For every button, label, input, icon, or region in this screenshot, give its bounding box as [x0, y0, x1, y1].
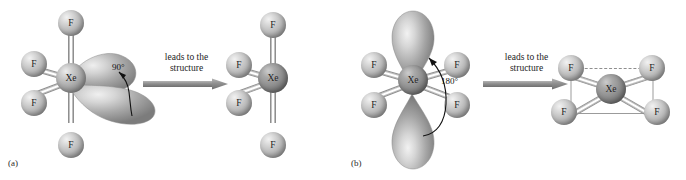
- angle-label-90: 90°: [112, 62, 125, 72]
- chemistry-figure: F F F F Xe 90° leads to the structure: [0, 0, 686, 180]
- angle-indicator-90: [95, 40, 165, 120]
- atom-xe-center: Xe: [56, 63, 86, 93]
- atom2-f-top: F: [260, 12, 286, 38]
- transition-text-line1-b: leads to the: [483, 52, 570, 64]
- atom-f-lower-left: F: [21, 90, 47, 116]
- atom3-f-upper-left: F: [361, 52, 387, 78]
- atom4-xe-center: Xe: [596, 74, 626, 104]
- panel-b: F F F F Xe 180° leads to the structure: [343, 0, 686, 180]
- angle-indicator-180: [403, 38, 473, 148]
- atom-f-top: F: [58, 10, 84, 36]
- atom4-f-front-left: F: [551, 99, 577, 125]
- atom3-f-lower-left: F: [361, 92, 387, 118]
- atom2-xe-center: Xe: [258, 63, 288, 93]
- atom2-f-lower-left: F: [226, 90, 252, 116]
- arrow-right-icon-b: [483, 78, 570, 92]
- atom4-f-front-right: F: [644, 99, 670, 125]
- atom-f-upper-left: F: [21, 51, 47, 77]
- transition-arrow-b: leads to the structure: [483, 52, 570, 92]
- panel-label-a: (a): [8, 158, 18, 168]
- atom4-f-back-right: F: [639, 55, 665, 81]
- atom-f-bottom: F: [58, 132, 84, 158]
- angle-label-180: 180°: [441, 76, 458, 86]
- atom4-f-back-left: F: [558, 55, 584, 81]
- atom2-f-bottom: F: [260, 132, 286, 158]
- atom2-f-upper-left: F: [226, 52, 252, 78]
- panel-a: F F F F Xe 90° leads to the structure: [0, 0, 343, 180]
- panel-label-b: (b): [351, 158, 362, 168]
- transition-text-line2-b: structure: [483, 63, 570, 75]
